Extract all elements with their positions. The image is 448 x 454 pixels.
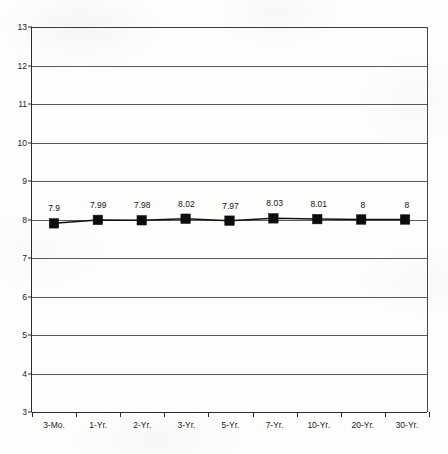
- x-tick-mark-2: [120, 412, 121, 417]
- x-tick-label-3-mo-: 3-Mo.: [43, 421, 65, 430]
- x-tick-mark-4: [208, 412, 209, 417]
- y-tick-label-11: 11: [18, 100, 27, 109]
- gridline-3: [32, 412, 427, 413]
- y-tick-label-8: 8: [22, 215, 27, 224]
- x-tick-label-2-yr-: 2-Yr.: [133, 421, 151, 430]
- data-label-20-yr-: 8: [360, 200, 365, 209]
- data-marker-2-yr-: [137, 216, 146, 226]
- data-marker-1-yr-: [93, 215, 102, 225]
- data-marker-3-yr-: [181, 214, 190, 224]
- data-marker-10-yr-: [313, 214, 322, 224]
- y-tick-label-9: 9: [22, 177, 27, 186]
- x-tick-mark-7: [341, 412, 342, 417]
- y-tick-label-3: 3: [22, 408, 27, 417]
- series-line-chart: [32, 27, 427, 412]
- x-tick-mark-6: [297, 412, 298, 417]
- data-label-7-yr-: 8.03: [266, 199, 283, 208]
- data-label-2-yr-: 7.98: [134, 201, 151, 210]
- data-marker-20-yr-: [356, 215, 365, 225]
- y-tick-label-13: 13: [18, 23, 27, 32]
- y-tick-label-10: 10: [18, 138, 27, 147]
- data-marker-3-mo-: [49, 219, 58, 229]
- x-tick-label-30-yr-: 30-Yr.: [396, 421, 419, 430]
- data-marker-30-yr-: [400, 215, 409, 225]
- data-label-3-mo-: 7.9: [48, 204, 60, 213]
- x-tick-mark-8: [385, 412, 386, 417]
- y-tick-label-7: 7: [22, 254, 27, 263]
- chart-container: 131211109876543 3-Mo.1-Yr.2-Yr.3-Yr.5-Yr…: [0, 0, 448, 454]
- series-markers: [49, 214, 410, 229]
- plot-area: 131211109876543 3-Mo.1-Yr.2-Yr.3-Yr.5-Yr…: [31, 27, 428, 412]
- data-marker-7-yr-: [269, 214, 278, 224]
- x-tick-mark-3: [164, 412, 165, 417]
- x-tick-label-5-yr-: 5-Yr.: [222, 421, 240, 430]
- x-tick-label-10-yr-: 10-Yr.: [307, 421, 330, 430]
- data-label-3-yr-: 8.02: [178, 199, 195, 208]
- data-label-5-yr-: 7.97: [222, 201, 239, 210]
- data-marker-5-yr-: [225, 216, 234, 226]
- y-tick-label-5: 5: [22, 331, 27, 340]
- data-label-1-yr-: 7.99: [90, 200, 107, 209]
- x-tick-label-20-yr-: 20-Yr.: [351, 421, 374, 430]
- x-tick-label-3-yr-: 3-Yr.: [177, 421, 195, 430]
- x-tick-label-1-yr-: 1-Yr.: [89, 421, 107, 430]
- x-tick-mark-9: [429, 412, 430, 417]
- x-tick-mark-5: [253, 412, 254, 417]
- x-tick-mark-1: [76, 412, 77, 417]
- x-tick-label-7-yr-: 7-Yr.: [266, 421, 284, 430]
- y-tick-label-6: 6: [22, 292, 27, 301]
- data-label-30-yr-: 8: [405, 200, 410, 209]
- x-tick-mark-0: [32, 412, 33, 417]
- y-tick-label-4: 4: [22, 369, 27, 378]
- y-tick-label-12: 12: [18, 61, 27, 70]
- data-label-10-yr-: 8.01: [310, 200, 327, 209]
